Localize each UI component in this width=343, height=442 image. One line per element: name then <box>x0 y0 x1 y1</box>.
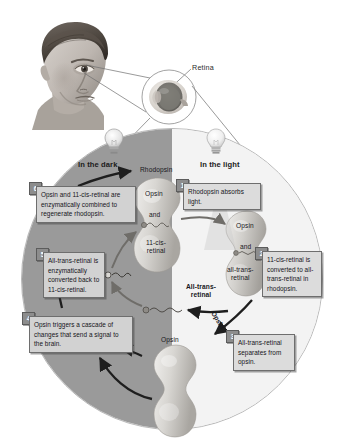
step-callout-1: Rhodopsin absorbs light. <box>183 183 261 210</box>
label-11-cis-retinal: 11-cis- retinal <box>146 239 166 255</box>
label-11-cis-retinal-line2: retinal <box>147 247 166 254</box>
molecule-opsin-free <box>154 345 196 437</box>
label-opsin-right: Opsin <box>236 222 254 229</box>
step-callout-3: All-trans-retinal separates from opsin. <box>233 334 295 371</box>
label-all-trans-retinal-main-line1: All-trans- <box>186 283 216 290</box>
retinal-11cis-free-chain <box>105 272 131 278</box>
label-and-right: and <box>240 243 251 250</box>
label-all-trans-retinal-right-line1: all-trans- <box>227 266 254 273</box>
label-all-trans-retinal-main-line2: retinal <box>191 291 212 298</box>
label-rhodopsin: Rhodopsin <box>140 166 172 173</box>
rhodopsin-cycle-figure: Retina <box>0 0 343 442</box>
label-all-trans-retinal-main: All-trans- retinal <box>186 283 216 299</box>
step-callout-6: Opsin and 11-cis-retinal are enzymatical… <box>36 186 136 223</box>
step-callout-4: Opsin triggers a cascade of changes that… <box>29 316 133 353</box>
label-opsin-top: Opsin <box>145 190 163 197</box>
label-opsin-bottom: Opsin <box>161 336 179 343</box>
label-11-cis-retinal-line1: 11-cis- <box>146 239 166 246</box>
step-callout-2: 11-cis-retinal is converted to all-trans… <box>262 251 322 297</box>
label-and-top: and <box>149 211 160 218</box>
retinal-alltrans-free-chain <box>143 307 182 313</box>
label-all-trans-retinal-right-line2: retinal <box>231 274 250 281</box>
step-callout-5: All-trans-retinal is enzymatically conve… <box>43 252 105 298</box>
label-all-trans-retinal-right: all-trans- retinal <box>227 266 254 282</box>
